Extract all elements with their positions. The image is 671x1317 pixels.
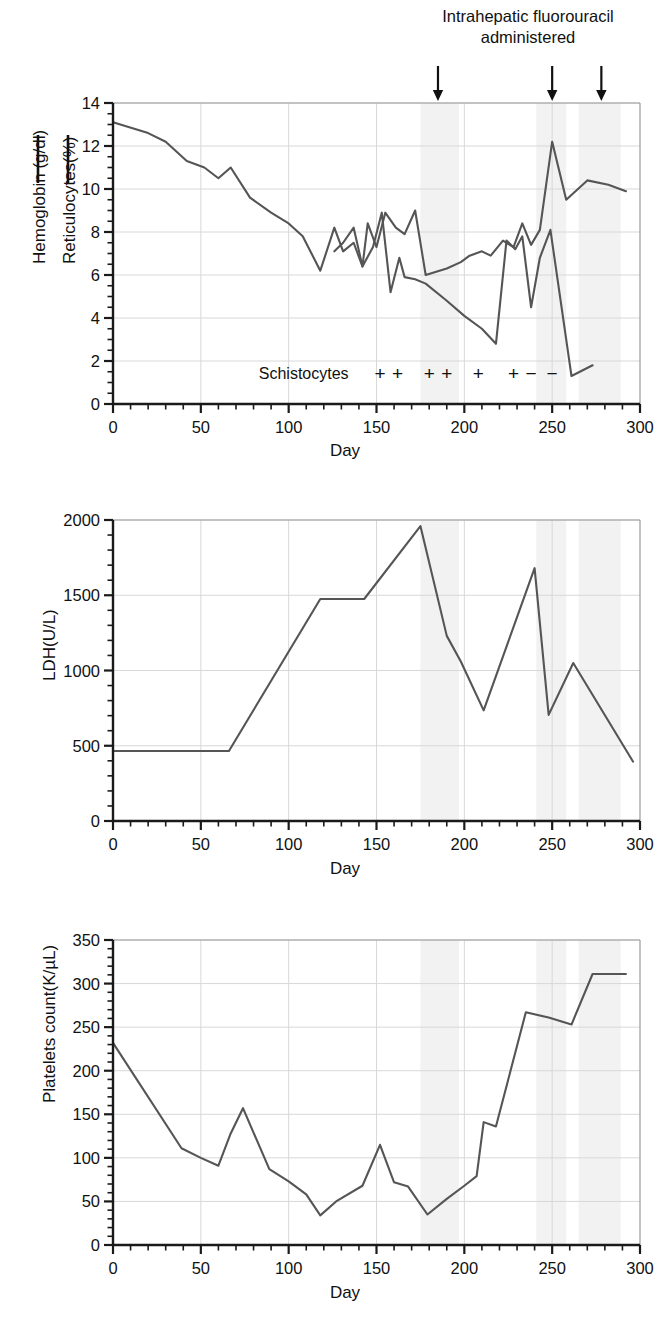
shaded-band-2 xyxy=(579,103,621,404)
schistocyte-marker-6: − xyxy=(526,363,537,384)
shaded-band-2 xyxy=(579,940,621,1245)
schistocyte-marker-5: + xyxy=(508,363,519,384)
y-axis-title-platelets: Platelets count(K/µL) xyxy=(40,944,60,1102)
dose-arrow-head-0 xyxy=(433,90,443,101)
y-axis-title-reticulocytes: Reticulocytes(%) xyxy=(60,136,80,264)
y-tick-label: 1500 xyxy=(63,586,100,604)
x-tick-label: 250 xyxy=(538,835,566,853)
y-tick-label: 0 xyxy=(91,812,100,830)
y-tick-label: 350 xyxy=(72,931,100,949)
schistocyte-marker-3: + xyxy=(441,363,452,384)
y-tick-label: 150 xyxy=(72,1105,100,1123)
x-tick-label: 300 xyxy=(626,1259,654,1277)
x-tick-label: 150 xyxy=(363,1259,391,1277)
y-tick-label: 100 xyxy=(72,1149,100,1167)
x-tick-label: 300 xyxy=(626,418,654,436)
dose-arrow-head-2 xyxy=(596,90,606,101)
y-tick-label: 10 xyxy=(82,180,100,198)
y-tick-label: 14 xyxy=(82,94,100,112)
y-tick-label: 500 xyxy=(72,737,100,755)
y-axis-title-hemoglobin: Hemoglobin (g/dl) xyxy=(30,129,50,263)
schistocyte-marker-0: + xyxy=(374,363,385,384)
chart-panel-ldh: 0500100015002000050100150200250300 LDH(U… xyxy=(0,470,671,890)
x-tick-label: 250 xyxy=(538,418,566,436)
ldh-chart-svg: 0500100015002000050100150200250300 xyxy=(0,470,671,890)
y-tick-label: 4 xyxy=(91,309,100,327)
y-tick-label: 0 xyxy=(91,395,100,413)
dose-arrow-head-1 xyxy=(547,90,557,101)
shaded-band-0 xyxy=(420,940,459,1245)
x-tick-label: 0 xyxy=(108,835,117,853)
schistocyte-marker-7: − xyxy=(547,363,558,384)
x-tick-label: 200 xyxy=(451,1259,479,1277)
y-axis-title-ldh: LDH(U/L) xyxy=(40,609,60,681)
y-tick-label: 300 xyxy=(72,975,100,993)
x-tick-label: 50 xyxy=(192,1259,210,1277)
x-tick-label: 200 xyxy=(451,418,479,436)
figure-root: Intrahepatic fluorouracil administered 0… xyxy=(0,0,671,1317)
shaded-band-0 xyxy=(420,103,459,404)
x-axis-title-ldh: Day xyxy=(300,859,390,879)
platelets-chart-svg: 050100150200250300350050100150200250300 xyxy=(0,890,671,1317)
y-tick-label: 8 xyxy=(91,223,100,241)
x-tick-label: 50 xyxy=(192,418,210,436)
schistocytes-label: Schistocytes xyxy=(259,365,349,382)
y-tick-label: 50 xyxy=(82,1192,100,1210)
schistocyte-marker-1: + xyxy=(392,363,403,384)
y-tick-label: 2000 xyxy=(63,511,100,529)
x-tick-label: 100 xyxy=(275,1259,303,1277)
x-tick-label: 0 xyxy=(108,1259,117,1277)
x-tick-label: 300 xyxy=(626,835,654,853)
y-tick-label: 12 xyxy=(82,137,100,155)
x-tick-label: 150 xyxy=(363,418,391,436)
chart-panel-platelets: 050100150200250300350050100150200250300 … xyxy=(0,890,671,1317)
hemoglobin-chart-svg: 02468101214050100150200250300Schistocyte… xyxy=(0,0,671,470)
schistocyte-marker-2: + xyxy=(424,363,435,384)
y-tick-label: 6 xyxy=(91,266,100,284)
y-tick-label: 0 xyxy=(91,1236,100,1254)
x-axis-title-platelets: Day xyxy=(300,1283,390,1303)
x-tick-label: 250 xyxy=(538,1259,566,1277)
x-tick-label: 200 xyxy=(451,835,479,853)
x-tick-label: 0 xyxy=(108,418,117,436)
schistocyte-marker-4: + xyxy=(473,363,484,384)
chart-panel-hemoglobin: Intrahepatic fluorouracil administered 0… xyxy=(0,0,671,470)
x-tick-label: 100 xyxy=(275,835,303,853)
y-tick-label: 200 xyxy=(72,1062,100,1080)
shaded-band-1 xyxy=(536,940,566,1245)
x-tick-label: 100 xyxy=(275,418,303,436)
y-tick-label: 1000 xyxy=(63,662,100,680)
y-tick-label: 2 xyxy=(91,352,100,370)
x-axis-title-hemoglobin: Day xyxy=(300,441,390,461)
y-tick-label: 250 xyxy=(72,1018,100,1036)
x-tick-label: 50 xyxy=(192,835,210,853)
x-tick-label: 150 xyxy=(363,835,391,853)
